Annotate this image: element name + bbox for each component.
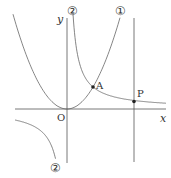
curve-2-label-bottom: ②: [50, 161, 61, 175]
hyperbola-curve-2-positive-branch: [73, 14, 166, 104]
function-graph: y x O A P ② ① ②: [0, 0, 171, 178]
hyperbola-curve-2-negative-branch: [15, 120, 56, 159]
point-a: [91, 85, 95, 89]
point-p-label: P: [137, 88, 144, 99]
curve-2-label-top: ②: [67, 4, 78, 18]
curve-1-label-top: ①: [115, 4, 126, 18]
x-axis-label: x: [160, 112, 167, 125]
y-axis-label: y: [56, 13, 64, 26]
origin-label: O: [57, 112, 65, 123]
point-p: [132, 100, 136, 104]
point-a-label: A: [95, 80, 104, 91]
parabola-curve-1: [13, 14, 120, 109]
